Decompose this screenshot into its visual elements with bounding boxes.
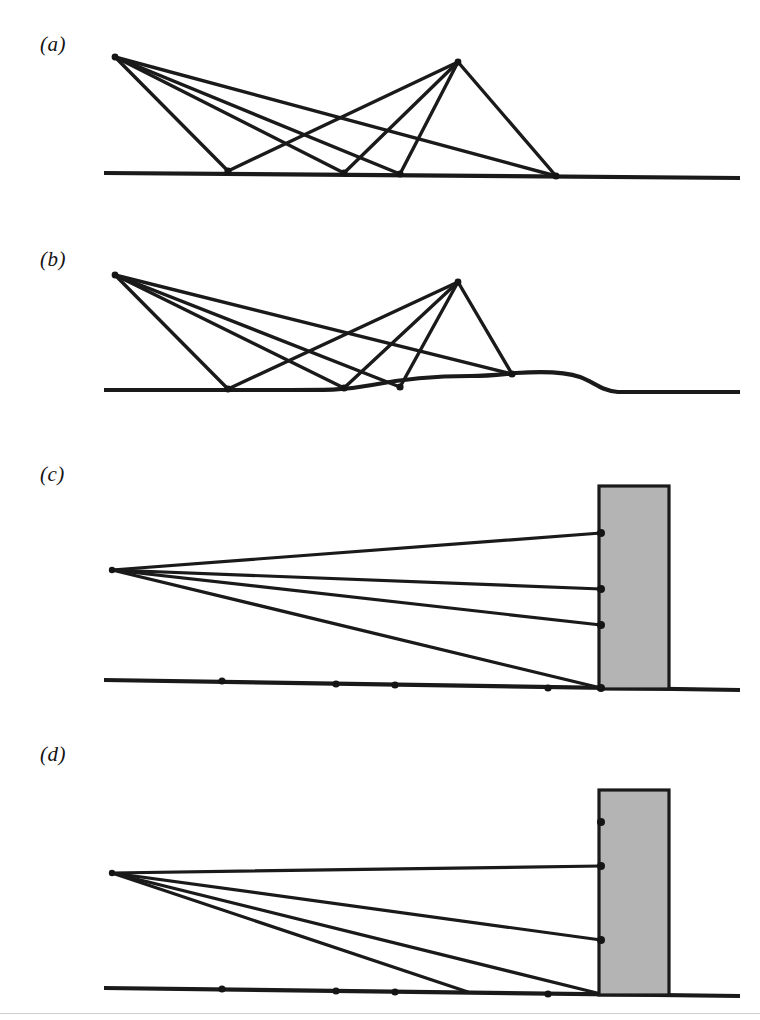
barrier-node-4 xyxy=(597,684,605,692)
source-point xyxy=(109,870,115,876)
left-apex xyxy=(112,272,119,279)
figure-root: (a) (b) (c) (d) xyxy=(0,0,760,1020)
ray-b3 xyxy=(115,275,400,387)
panel-a xyxy=(104,54,740,180)
ground-node-1 xyxy=(224,167,231,174)
ray-d2 xyxy=(112,873,601,940)
ray-b5 xyxy=(228,282,458,389)
ray-d3 xyxy=(112,873,601,994)
ground-node-2 xyxy=(340,384,347,391)
panel-d-rays xyxy=(112,866,601,994)
panel-c-rays xyxy=(112,533,601,688)
panel-a-rays xyxy=(115,57,556,176)
right-apex xyxy=(455,59,462,66)
ground-node-2 xyxy=(332,680,339,687)
ground-node-2 xyxy=(340,169,347,176)
ground-node-3 xyxy=(396,383,403,390)
figure-canvas xyxy=(0,0,760,1020)
ray-b8 xyxy=(458,282,512,374)
barrier-node-shadowed xyxy=(597,818,605,826)
panel-a-ground-line xyxy=(104,173,740,178)
panel-d xyxy=(104,790,740,998)
barrier-node-3 xyxy=(597,621,605,629)
panel-d-barrier xyxy=(599,790,669,995)
ray-a6 xyxy=(344,62,458,173)
ground-node-3 xyxy=(396,170,403,177)
ray-b2 xyxy=(115,275,344,388)
panel-c xyxy=(104,486,740,692)
ground-node-1 xyxy=(218,985,225,992)
panel-b-ground-hill xyxy=(104,372,740,392)
ground-node-4 xyxy=(552,172,559,179)
ground-node-3 xyxy=(391,681,398,688)
ground-node-4 xyxy=(508,370,515,377)
panel-b-rays xyxy=(115,275,512,389)
ray-a4 xyxy=(115,57,556,176)
barrier-node-1 xyxy=(597,862,605,870)
ray-a2 xyxy=(115,57,344,173)
barrier-node-2 xyxy=(597,585,605,593)
ground-node-3 xyxy=(391,988,398,995)
figure-bottom-rule xyxy=(0,1013,760,1014)
ray-d4 xyxy=(112,873,468,992)
ground-node-2 xyxy=(332,987,339,994)
ray-b7 xyxy=(400,282,458,387)
ground-node-1 xyxy=(224,385,231,392)
ray-b1 xyxy=(115,275,228,389)
ray-a8 xyxy=(458,62,556,176)
ray-a1 xyxy=(115,57,228,171)
panel-b xyxy=(104,272,740,393)
ray-c1 xyxy=(112,533,601,570)
ground-node-4 xyxy=(544,990,551,997)
source-point xyxy=(109,567,115,573)
right-apex xyxy=(455,279,462,286)
left-apex xyxy=(112,54,119,61)
barrier-node-1 xyxy=(597,529,605,537)
ground-node-1 xyxy=(218,677,225,684)
panel-c-barrier xyxy=(599,486,669,689)
ray-a7 xyxy=(400,62,458,174)
barrier-node-2 xyxy=(597,936,605,944)
ray-d1 xyxy=(112,866,601,873)
ground-node-4 xyxy=(544,684,551,691)
